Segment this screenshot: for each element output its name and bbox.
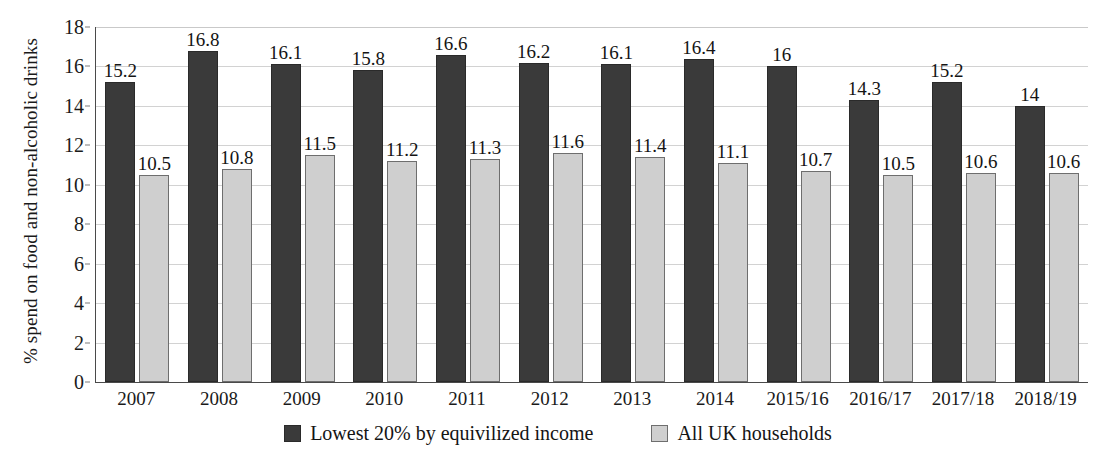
bar[interactable]: 15.8 [353,70,383,382]
bar[interactable]: 10.8 [222,169,252,382]
bar-value-label: 11.1 [717,142,750,161]
y-axis-tick-labels: 024681012141618 [48,27,90,382]
bar-value-label: 11.5 [303,134,336,153]
bar[interactable]: 15.2 [932,82,962,382]
bar-group: 15.210.5 [96,27,179,382]
bar-value-label: 10.6 [1047,152,1080,171]
y-axis-title: % spend on food and non-alcoholic drinks [16,6,46,396]
y-axis-tick-mark [85,382,90,383]
y-axis-tick-label: 0 [74,372,84,392]
bar-group: 15.210.6 [923,27,1006,382]
x-axis-tick-label: 2009 [283,388,321,411]
x-axis-tick-label: 2017/18 [932,388,994,411]
y-axis-tick-mark [85,105,90,106]
bar-value-label: 14 [1020,85,1039,104]
bar[interactable]: 10.5 [139,175,169,382]
bar-value-label: 16 [772,45,791,64]
y-axis-tick-label: 6 [74,254,84,274]
bar-value-label: 10.5 [138,154,171,173]
bar-group: 16.411.1 [675,27,758,382]
bar[interactable]: 16.1 [271,64,301,382]
y-axis-tick-mark [85,66,90,67]
y-axis-tick-mark [85,145,90,146]
bars-layer: 15.210.516.810.816.111.515.811.216.611.3… [96,27,1088,382]
bar-value-label: 11.6 [551,132,584,151]
bar[interactable]: 16.6 [436,55,466,382]
x-axis-tick-label: 2018/19 [1015,388,1077,411]
plot-area: 15.210.516.810.816.111.515.811.216.611.3… [95,27,1088,383]
x-axis-tick-label: 2010 [365,388,403,411]
y-axis-tick-label: 10 [64,175,84,195]
bar-group: 16.111.4 [592,27,675,382]
chart-legend: Lowest 20% by equivilized incomeAll UK h… [0,418,1116,448]
bar[interactable]: 16.4 [684,59,714,382]
bar-group: 16.611.3 [427,27,510,382]
bar[interactable]: 16 [767,66,797,382]
legend-item-label: Lowest 20% by equivilized income [310,423,593,443]
y-axis-tick-label: 16 [64,56,84,76]
x-axis-tick-label: 2015/16 [767,388,829,411]
bar[interactable]: 16.2 [519,63,549,383]
x-axis-tick-label: 2008 [200,388,238,411]
bar[interactable]: 11.3 [470,159,500,382]
x-axis-tick-label: 2011 [448,388,485,411]
bar[interactable]: 16.1 [601,64,631,382]
y-axis-tick-mark [85,224,90,225]
y-axis-tick-label: 14 [64,96,84,116]
bar-chart: % spend on food and non-alcoholic drinks… [0,0,1116,465]
x-axis-tick-label: 2013 [613,388,651,411]
bar-group: 14.310.5 [840,27,923,382]
x-axis-tick-labels: 200720082009201020112012201320142015/162… [95,388,1087,414]
bar-value-label: 10.6 [964,152,997,171]
bar-value-label: 11.2 [386,140,419,159]
y-axis-tick-label: 12 [64,135,84,155]
bar[interactable]: 11.4 [635,157,665,382]
bar[interactable]: 10.7 [801,171,831,382]
x-axis-tick-label: 2014 [696,388,734,411]
legend-item[interactable]: All UK households [651,423,831,443]
bar-group: 16.810.8 [179,27,262,382]
bar[interactable]: 15.2 [105,82,135,382]
bar[interactable]: 11.1 [718,163,748,382]
bar-value-label: 16.8 [186,30,219,49]
x-axis-tick-label: 2016/17 [849,388,911,411]
bar[interactable]: 14 [1015,106,1045,382]
y-axis-tick-mark [85,342,90,343]
bar-value-label: 16.1 [269,43,302,62]
bar[interactable]: 16.8 [188,51,218,382]
bar-value-label: 15.2 [104,61,137,80]
bar-value-label: 16.1 [600,43,633,62]
bar[interactable]: 14.3 [849,100,879,382]
y-axis-tick-label: 18 [64,17,84,37]
x-axis-tick-label: 2012 [531,388,569,411]
bar-value-label: 16.4 [682,38,715,57]
y-axis-tick-mark [85,184,90,185]
bar-group: 15.811.2 [344,27,427,382]
y-axis-tick-mark [85,27,90,28]
bar-group: 16.211.6 [509,27,592,382]
y-axis-tick-mark [85,263,90,264]
bar-value-label: 10.7 [799,150,832,169]
bar-value-label: 11.4 [634,136,667,155]
bar[interactable]: 11.6 [553,153,583,382]
legend-item[interactable]: Lowest 20% by equivilized income [284,423,593,443]
bar[interactable]: 10.6 [1049,173,1079,382]
light-square-icon [651,425,668,442]
bar[interactable]: 10.5 [883,175,913,382]
bar-group: 16.111.5 [261,27,344,382]
x-axis-tick-label: 2007 [117,388,155,411]
legend-item-label: All UK households [677,423,831,443]
bar-value-label: 16.6 [434,34,467,53]
y-axis-tick-label: 8 [74,214,84,234]
bar[interactable]: 11.5 [305,155,335,382]
y-axis-tick-label: 4 [74,293,84,313]
bar-group: 1610.7 [757,27,840,382]
bar-value-label: 16.2 [517,42,550,61]
bar-value-label: 15.2 [930,61,963,80]
bar[interactable]: 11.2 [387,161,417,382]
bar-value-label: 10.5 [882,154,915,173]
bar-value-label: 11.3 [469,138,502,157]
bar-value-label: 15.8 [352,49,385,68]
y-axis-tick-mark [85,303,90,304]
bar[interactable]: 10.6 [966,173,996,382]
